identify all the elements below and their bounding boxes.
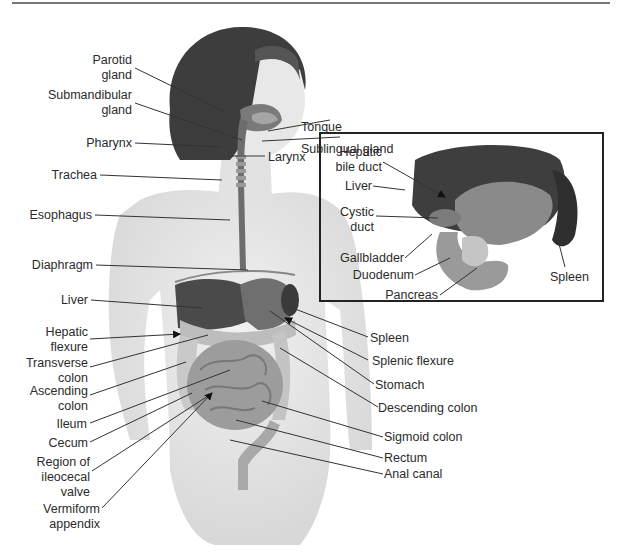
label-ileum: Ileum: [30, 417, 87, 432]
label-sigmoid-colon: Sigmoid colon: [384, 430, 463, 445]
label-trachea: Trachea: [30, 168, 97, 183]
label-gallbladder: Gallbladder: [330, 251, 404, 266]
label-parotid-gland: Parotid gland: [60, 53, 132, 83]
label-duodenum: Duodenum: [350, 268, 414, 283]
label-inset-spleen: Spleen: [550, 270, 589, 285]
label-submandibular-gland: Submandibular gland: [22, 88, 132, 118]
label-tongue: Tongue: [301, 120, 342, 135]
label-cecum: Cecum: [30, 436, 88, 451]
label-esophagus: Esophagus: [10, 208, 92, 223]
label-larynx: Larynx: [268, 150, 306, 165]
label-pancreas: Pancreas: [380, 288, 438, 303]
label-anal-canal: Anal canal: [384, 467, 442, 482]
label-pharynx: Pharynx: [60, 136, 132, 151]
label-vermiform-appendix: Vermiform appendix: [20, 502, 100, 532]
label-ileocecal-valve: Region of ileocecal valve: [10, 455, 90, 500]
label-liver: Liver: [30, 293, 88, 308]
label-inset-liver: Liver: [330, 179, 372, 194]
label-ascending-colon: Ascending colon: [10, 384, 88, 414]
label-cystic-duct: Cystic duct: [330, 205, 374, 235]
label-transverse-colon: Transverse colon: [10, 356, 88, 386]
label-rectum: Rectum: [384, 451, 427, 466]
label-hepatic-flexure: Hepatic flexure: [20, 325, 88, 355]
label-splenic-flexure: Splenic flexure: [372, 354, 454, 369]
label-diaphragm: Diaphragm: [10, 258, 93, 273]
label-descending-colon: Descending colon: [378, 401, 477, 416]
label-hepatic-bile-duct: Hepatic bile duct: [320, 145, 382, 175]
label-spleen: Spleen: [370, 331, 409, 346]
label-stomach: Stomach: [375, 378, 424, 393]
